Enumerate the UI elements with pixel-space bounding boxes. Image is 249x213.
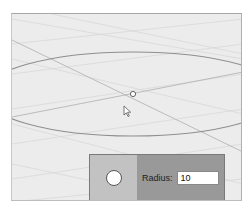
axis-line <box>12 40 242 152</box>
mouse-cursor-icon <box>124 106 131 117</box>
center-point-icon[interactable] <box>130 91 135 96</box>
circle-curve <box>12 52 242 136</box>
radius-input-panel: Radius: <box>89 154 225 201</box>
radius-input[interactable] <box>177 171 219 185</box>
3d-viewport[interactable]: Radius: <box>11 13 242 201</box>
shape-preview <box>90 155 137 200</box>
circle-icon <box>106 170 122 186</box>
radius-label: Radius: <box>142 173 173 183</box>
radius-controls: Radius: <box>137 155 224 200</box>
